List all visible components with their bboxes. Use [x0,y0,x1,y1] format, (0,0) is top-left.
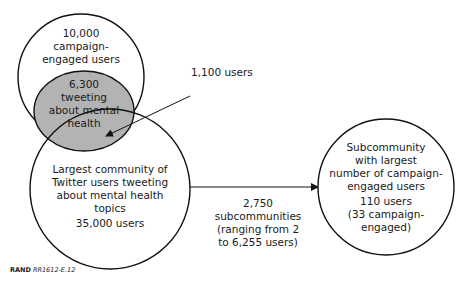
subcommunity-label: Subcommunity with largest number of camp… [326,141,446,234]
campaign-circle-label: 10,000 campaign- engaged users [31,27,131,66]
mental-health-subset-label: 6,300 tweeting about mental health [36,78,132,130]
overlap-annotation: 1,100 users [191,66,253,79]
largest-community-label: Largest community of Twitter users tweet… [40,163,180,230]
figure-credit: RAND RR1612-E.12 [10,266,75,274]
subcommunities-arrow-label: 2,750 subcommunities (ranging from 2 to … [198,197,318,249]
